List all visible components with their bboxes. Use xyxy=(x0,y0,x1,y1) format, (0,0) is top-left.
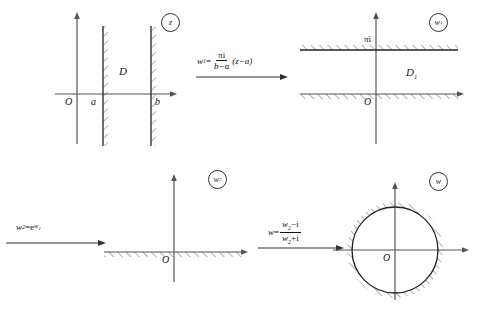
map-3-formula: w = w2−i w2+i xyxy=(268,219,302,245)
z-plane-region-label: D xyxy=(119,65,127,77)
map-1-numerator: πi xyxy=(216,50,227,61)
w1-plane-label-sub: 1 xyxy=(440,20,443,25)
map-1-formula: w1 = πi b−a (z−a) xyxy=(197,50,252,72)
map-3-num-rest: −i xyxy=(291,219,299,229)
w1-region-sub: 1 xyxy=(414,73,417,80)
w1-plane-circled-label: w1 xyxy=(429,13,448,32)
z-plane-mark-b: b xyxy=(155,96,160,107)
map-3-den-rest: +i xyxy=(291,233,299,243)
map-2-exponent-sub: 1 xyxy=(38,227,41,232)
w2-plane-label-sub: 2 xyxy=(219,177,222,182)
w1-region-letter: D xyxy=(406,66,414,78)
panel-w2-plane: O xyxy=(104,170,264,285)
map-1-equals: = xyxy=(206,56,211,66)
z-plane-mark-a: a xyxy=(91,96,96,107)
map-1-fraction: πi b−a xyxy=(212,50,231,72)
w-plane-label-text: w xyxy=(436,178,441,186)
panel-w1-plane: πi O D1 xyxy=(300,8,479,148)
map-1-arrow xyxy=(196,72,292,82)
map-2-arrow xyxy=(6,238,110,248)
map-1-denominator: b−a xyxy=(212,61,231,71)
panel-w-plane: O xyxy=(333,170,479,302)
w2-plane-circled-label: w2 xyxy=(208,170,227,189)
map-3-numerator: w2−i xyxy=(280,219,301,233)
w1-plane-origin-label: O xyxy=(364,96,371,107)
z-plane-circled-label: z xyxy=(161,13,180,32)
map-3-fraction: w2−i w2+i xyxy=(280,219,301,245)
w1-plane-axes xyxy=(300,8,479,148)
map-3-equals: = xyxy=(274,227,279,237)
conformal-mapping-figure: O a b D z w1 = πi b−a (z−a) xyxy=(0,0,479,332)
map-2-formula: w2 = ew1 xyxy=(16,222,41,232)
z-plane-origin-label: O xyxy=(65,96,72,107)
w2-plane-axes xyxy=(104,170,264,285)
z-plane-label-text: z xyxy=(169,19,172,27)
w-plane-axes xyxy=(333,170,479,302)
w1-plane-top-boundary-label: πi xyxy=(364,34,371,44)
map-2-exponent: w1 xyxy=(34,222,41,231)
w-plane-circled-label: w xyxy=(429,172,448,191)
w2-plane-origin-label: O xyxy=(162,254,169,265)
w-plane-origin-label: O xyxy=(383,252,390,263)
w1-plane-region-label: D1 xyxy=(406,66,417,80)
map-1-trailing: (z−a) xyxy=(232,56,252,66)
